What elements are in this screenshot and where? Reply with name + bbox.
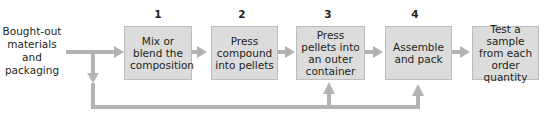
- step-label: Test a sample from each order quantity: [474, 23, 538, 83]
- step-box-4: Assemble and pack: [385, 26, 452, 80]
- step-label: Assemble and pack: [391, 41, 447, 65]
- input-line: and: [0, 51, 64, 64]
- step-box-3: Press pellets into an outer container: [296, 26, 365, 80]
- step-number-1: 1: [148, 8, 168, 20]
- test-box: Test a sample from each order quantity: [472, 26, 539, 80]
- step-label: Press pellets into an outer container: [299, 29, 363, 77]
- step-box-1: Mix or blend the composition: [124, 26, 192, 80]
- step-number-3: 3: [318, 8, 338, 20]
- input-line: packaging: [0, 64, 64, 77]
- step-number-4: 4: [405, 8, 425, 20]
- step-label: Press compound into pellets: [213, 35, 277, 71]
- step-label: Mix or blend the composition: [130, 35, 186, 71]
- input-label: Bought-out materials and packaging: [0, 25, 64, 77]
- arrowhead: [114, 46, 124, 58]
- bypass-bottom: [93, 83, 418, 107]
- step-box-2: Press compound into pellets: [211, 26, 278, 80]
- input-line: Bought-out: [0, 25, 64, 38]
- input-line: materials: [0, 38, 64, 51]
- step-number-2: 2: [232, 8, 252, 20]
